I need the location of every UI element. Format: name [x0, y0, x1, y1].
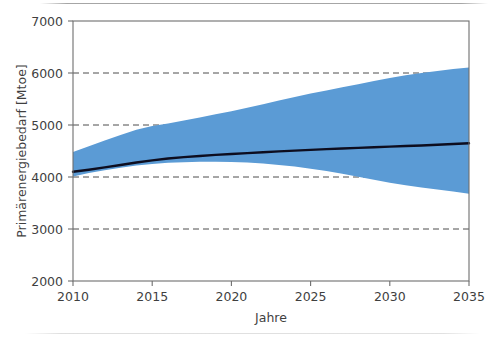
y-axis-tick-labels: 200030004000500060007000 — [31, 14, 63, 289]
y-tick-label-5000: 5000 — [31, 118, 63, 133]
y-tick-label-2000: 2000 — [31, 274, 63, 289]
x-tick-label-2010: 2010 — [57, 289, 89, 304]
x-axis-title: Jahre — [254, 310, 287, 325]
y-axis-title: Primärenergiebedarf [Mtoe] — [14, 64, 29, 237]
chart-figure: 201020152020202520302035 200030004000500… — [0, 0, 495, 339]
y-tick-label-6000: 6000 — [31, 66, 63, 81]
y-tick-label-3000: 3000 — [31, 222, 63, 237]
primary-energy-demand-chart: 201020152020202520302035 200030004000500… — [0, 0, 495, 339]
x-tick-label-2035: 2035 — [453, 289, 485, 304]
x-tick-label-2030: 2030 — [374, 289, 406, 304]
x-tick-label-2015: 2015 — [136, 289, 168, 304]
scan-artifact-top — [40, 3, 488, 4]
y-tick-label-7000: 7000 — [31, 14, 63, 29]
x-axis-tick-labels: 201020152020202520302035 — [57, 289, 485, 304]
y-tick-label-4000: 4000 — [31, 170, 63, 185]
x-axis-ticks — [73, 281, 469, 286]
scan-artifact-bottom — [25, 333, 480, 334]
y-axis-ticks — [68, 21, 73, 281]
x-tick-label-2025: 2025 — [295, 289, 327, 304]
x-tick-label-2020: 2020 — [215, 289, 247, 304]
